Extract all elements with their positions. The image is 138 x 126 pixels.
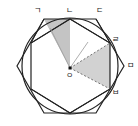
label-r: ㄹ: [112, 36, 119, 44]
label-n: ㄴ: [66, 7, 73, 15]
label-g: ㄱ: [34, 7, 41, 15]
geometry-diagram: [0, 0, 138, 126]
label-m: ㅁ: [127, 62, 134, 70]
label-center-o: ㅇ: [66, 72, 73, 80]
label-d: ㄷ: [96, 7, 103, 15]
center-point: [69, 67, 72, 70]
label-b: ㅂ: [112, 89, 119, 97]
